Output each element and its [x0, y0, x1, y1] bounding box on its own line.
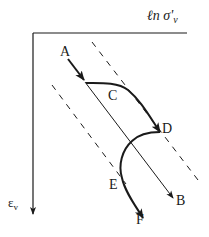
line-to-b — [85, 82, 173, 198]
path-a-segment — [68, 59, 84, 80]
point-label-a: A — [60, 44, 71, 59]
y-axis-label: εv — [8, 195, 18, 212]
consolidation-path-diagram: ℓn σ'v εv A C D E B F — [0, 0, 209, 237]
path-c-to-d — [86, 83, 160, 132]
path-d-to-f — [120, 132, 160, 218]
point-label-d: D — [162, 121, 172, 136]
point-label-b: B — [176, 193, 185, 208]
point-label-e: E — [109, 177, 118, 192]
point-label-c: C — [108, 88, 117, 103]
x-axis-label: ℓn σ'v — [147, 8, 178, 25]
point-label-f: F — [136, 212, 144, 227]
